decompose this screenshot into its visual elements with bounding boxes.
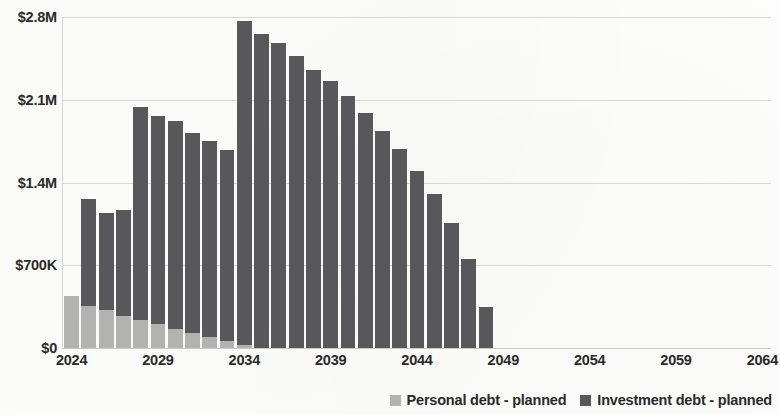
gridline-0 bbox=[63, 348, 771, 349]
bar-2039[interactable] bbox=[323, 17, 338, 348]
bar-segment-investment-debt-2042 bbox=[375, 131, 390, 349]
bar-2035[interactable] bbox=[254, 17, 269, 348]
bar-2029[interactable] bbox=[151, 17, 166, 348]
bar-segment-investment-debt-2039 bbox=[323, 81, 338, 348]
bar-2034[interactable] bbox=[237, 17, 252, 348]
bar-segment-investment-debt-2046 bbox=[444, 223, 459, 348]
legend-item-investment-debt[interactable]: Investment debt - planned bbox=[580, 393, 772, 408]
bar-2031[interactable] bbox=[185, 17, 200, 348]
bar-segment-investment-debt-2037 bbox=[289, 56, 304, 348]
bar-segment-investment-debt-2036 bbox=[271, 43, 286, 348]
bar-2043[interactable] bbox=[392, 17, 407, 348]
bar-segment-personal-debt-2031 bbox=[185, 333, 200, 348]
x-axis-label-2059: 2059 bbox=[660, 353, 691, 368]
bar-segment-investment-debt-2041 bbox=[358, 113, 373, 348]
y-axis-label-21M: $2.1M bbox=[1, 93, 57, 108]
bar-segment-personal-debt-2026 bbox=[99, 310, 114, 348]
bar-2047[interactable] bbox=[461, 17, 476, 348]
bar-segment-investment-debt-2045 bbox=[427, 194, 442, 348]
y-axis-label-700K: $700K bbox=[1, 258, 57, 273]
bar-segment-personal-debt-2032 bbox=[202, 337, 217, 348]
legend-label-investment-debt: Investment debt - planned bbox=[597, 393, 772, 408]
x-axis-label-2064: 2064 bbox=[747, 353, 778, 368]
legend-swatch-investment-debt bbox=[580, 395, 591, 406]
bar-2030[interactable] bbox=[168, 17, 183, 348]
bar-segment-investment-debt-2048 bbox=[479, 307, 494, 348]
x-axis-tick-labels: 202420292034203920442049205420592064 bbox=[0, 353, 780, 375]
bar-2026[interactable] bbox=[99, 17, 114, 348]
y-axis-label-14M: $1.4M bbox=[1, 176, 57, 191]
legend-item-personal-debt[interactable]: Personal debt - planned bbox=[390, 393, 567, 408]
bar-2042[interactable] bbox=[375, 17, 390, 348]
plot-bars bbox=[63, 17, 771, 348]
bar-segment-personal-debt-2027 bbox=[116, 316, 131, 348]
bar-segment-investment-debt-2028 bbox=[133, 107, 148, 320]
y-axis-label-28M: $2.8M bbox=[1, 10, 57, 25]
bar-segment-personal-debt-2030 bbox=[168, 329, 183, 349]
bar-segment-investment-debt-2026 bbox=[99, 213, 114, 310]
bar-2028[interactable] bbox=[133, 17, 148, 348]
legend-label-personal-debt: Personal debt - planned bbox=[407, 393, 567, 408]
x-axis-label-2049: 2049 bbox=[488, 353, 519, 368]
x-axis-label-2034: 2034 bbox=[229, 353, 260, 368]
bar-segment-investment-debt-2032 bbox=[202, 141, 217, 337]
bar-segment-investment-debt-2033 bbox=[220, 150, 235, 341]
bar-segment-investment-debt-2030 bbox=[168, 121, 183, 328]
x-axis-label-2044: 2044 bbox=[401, 353, 432, 368]
bar-2038[interactable] bbox=[306, 17, 321, 348]
bar-segment-investment-debt-2025 bbox=[81, 199, 96, 306]
bar-segment-investment-debt-2047 bbox=[461, 259, 476, 348]
bar-segment-investment-debt-2035 bbox=[254, 34, 269, 348]
bar-2046[interactable] bbox=[444, 17, 459, 348]
bar-segment-personal-debt-2034 bbox=[237, 345, 252, 348]
bar-segment-investment-debt-2029 bbox=[151, 116, 166, 324]
bar-segment-investment-debt-2034 bbox=[237, 21, 252, 345]
bar-2036[interactable] bbox=[271, 17, 286, 348]
x-axis-label-2039: 2039 bbox=[315, 353, 346, 368]
bar-2032[interactable] bbox=[202, 17, 217, 348]
bar-2025[interactable] bbox=[81, 17, 96, 348]
bar-segment-personal-debt-2025 bbox=[81, 306, 96, 348]
bar-2024[interactable] bbox=[64, 17, 79, 348]
bar-segment-personal-debt-2033 bbox=[220, 341, 235, 348]
bar-2041[interactable] bbox=[358, 17, 373, 348]
bar-segment-investment-debt-2044 bbox=[410, 171, 425, 348]
bar-2045[interactable] bbox=[427, 17, 442, 348]
debt-projection-bar-chart: $0$700K$1.4M$2.1M$2.8M 20242029203420392… bbox=[0, 0, 780, 415]
bar-segment-personal-debt-2028 bbox=[133, 320, 148, 348]
bar-segment-personal-debt-2024 bbox=[64, 296, 79, 348]
bar-2033[interactable] bbox=[220, 17, 235, 348]
bar-2040[interactable] bbox=[341, 17, 356, 348]
bar-segment-investment-debt-2040 bbox=[341, 96, 356, 348]
x-axis-label-2024: 2024 bbox=[56, 353, 87, 368]
bar-segment-investment-debt-2038 bbox=[306, 70, 321, 348]
chart-legend: Personal debt - plannedInvestment debt -… bbox=[0, 390, 780, 410]
bar-segment-investment-debt-2043 bbox=[392, 149, 407, 348]
bar-2048[interactable] bbox=[479, 17, 494, 348]
bar-2027[interactable] bbox=[116, 17, 131, 348]
x-axis-label-2029: 2029 bbox=[142, 353, 173, 368]
bar-segment-personal-debt-2029 bbox=[151, 324, 166, 348]
bar-2037[interactable] bbox=[289, 17, 304, 348]
bar-2044[interactable] bbox=[410, 17, 425, 348]
bar-segment-investment-debt-2031 bbox=[185, 133, 200, 332]
bar-segment-investment-debt-2027 bbox=[116, 210, 131, 316]
x-axis-label-2054: 2054 bbox=[574, 353, 605, 368]
legend-swatch-personal-debt bbox=[390, 395, 401, 406]
